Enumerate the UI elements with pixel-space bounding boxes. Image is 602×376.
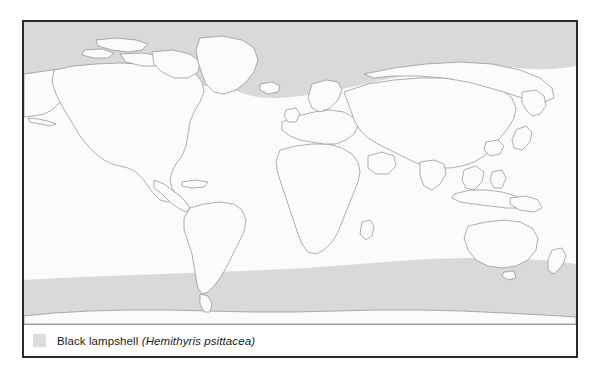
legend-label: Black lampshell (Hemithyris psittacea): [57, 335, 255, 347]
land-caribbean: [182, 180, 208, 188]
legend-scientific-name: (Hemithyris psittacea): [142, 335, 255, 347]
legend-swatch: [33, 334, 46, 347]
figure-frame: Black lampshell (Hemithyris psittacea): [22, 20, 578, 358]
world-map-svg: [24, 22, 576, 324]
map-legend: Black lampshell (Hemithyris psittacea): [24, 325, 576, 356]
map-plate: [24, 22, 576, 324]
figure-page: Black lampshell (Hemithyris psittacea): [0, 0, 602, 376]
legend-common-name: Black lampshell: [57, 335, 138, 347]
